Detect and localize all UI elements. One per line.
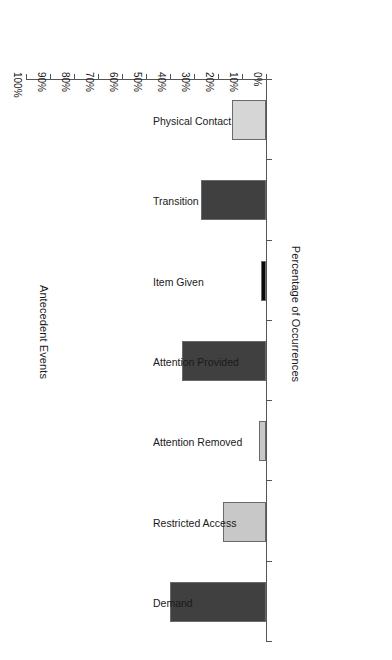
- value-axis-tick: [74, 74, 75, 79]
- chart-figure: Percentage of Occurrences Antecedent Eve…: [0, 0, 392, 660]
- category-axis-tick: [267, 480, 272, 481]
- category-label-attention-provided: Attention Provided: [153, 356, 271, 368]
- category-axis-tick: [267, 240, 272, 241]
- category-label-attention-removed: Attention Removed: [153, 436, 271, 448]
- value-axis-tick-label: 60%: [108, 72, 119, 92]
- value-axis-tick-label: 0%: [252, 72, 263, 86]
- value-axis-tick: [194, 74, 195, 79]
- value-axis-tick-label: 70%: [84, 72, 95, 92]
- category-axis-tick: [267, 561, 272, 562]
- value-axis-tick: [50, 74, 51, 79]
- plot-area: 0%10%20%30%40%50%60%70%80%90%100% Demand…: [27, 80, 267, 642]
- value-axis-tick-label: 40%: [156, 72, 167, 92]
- value-axis-tick-label: 100%: [12, 72, 23, 98]
- category-axis-tick: [267, 641, 272, 642]
- category-axis-tick: [267, 79, 272, 80]
- category-label-restricted-access: Restricted Access: [153, 517, 271, 529]
- category-label-item-given: Item Given: [153, 276, 271, 288]
- category-axis-tick: [267, 320, 272, 321]
- value-axis-tick-label: 30%: [180, 72, 191, 92]
- value-axis-tick: [122, 74, 123, 79]
- value-axis-tick: [242, 74, 243, 79]
- category-axis-tick: [267, 159, 272, 160]
- value-axis-title: Percentage of Occurrences: [290, 194, 302, 434]
- value-axis-tick: [26, 74, 27, 79]
- category-label-demand: Demand: [153, 597, 271, 609]
- category-axis-tick: [267, 400, 272, 401]
- value-axis-tick-label: 80%: [60, 72, 71, 92]
- bar-chart: Percentage of Occurrences Antecedent Eve…: [0, 0, 392, 660]
- value-axis-tick-label: 50%: [132, 72, 143, 92]
- value-axis-tick: [146, 74, 147, 79]
- value-axis-tick-label: 10%: [228, 72, 239, 92]
- category-label-transition: Transition: [153, 195, 271, 207]
- value-axis-tick-label: 20%: [204, 72, 215, 92]
- value-axis-tick: [170, 74, 171, 79]
- value-axis-tick: [98, 74, 99, 79]
- value-axis-tick-label: 90%: [36, 72, 47, 92]
- value-axis-tick: [218, 74, 219, 79]
- category-label-physical-contact: Physical Contact: [153, 115, 271, 127]
